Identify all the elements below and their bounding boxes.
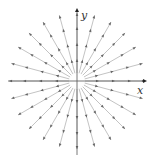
y-axis-label: y — [81, 9, 87, 22]
vector-field-plot — [0, 0, 154, 162]
x-axis-arrow-icon — [143, 79, 147, 83]
x-axis-label: x — [137, 84, 143, 97]
y-axis-arrow-icon — [75, 8, 79, 12]
